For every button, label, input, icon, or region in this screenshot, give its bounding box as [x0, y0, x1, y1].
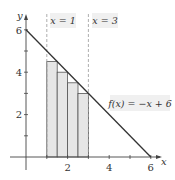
function-label-text: f(x) = −x + 6 [107, 98, 172, 109]
rectangles [47, 62, 89, 157]
label-x1: x = 1 [50, 13, 76, 28]
y-tick-label-6: 6 [16, 25, 22, 36]
riemann-sum-diagram: 2 4 6 2 4 6 x y x = 1 x = 3 f(x) = −x + … [0, 0, 175, 180]
label-x3: x = 3 [92, 13, 118, 28]
rectangle-3 [68, 83, 78, 157]
rectangle-4 [78, 93, 88, 157]
label-x3-text: x = 3 [92, 15, 117, 26]
y-tick-label-2: 2 [16, 109, 22, 120]
x-tick-label-4: 4 [106, 162, 112, 173]
function-label: f(x) = −x + 6 [107, 95, 172, 111]
y-axis-label: y [16, 10, 23, 21]
rectangle-2 [57, 72, 67, 157]
x-tick-label-6: 6 [148, 162, 154, 173]
label-x1-text: x = 1 [50, 15, 75, 26]
x-tick-label-2: 2 [64, 162, 70, 173]
y-tick-label-4: 4 [16, 67, 22, 78]
x-axis-label: x [161, 156, 167, 167]
y-axis-arrow-icon [24, 14, 28, 20]
rectangle-1 [47, 62, 57, 157]
